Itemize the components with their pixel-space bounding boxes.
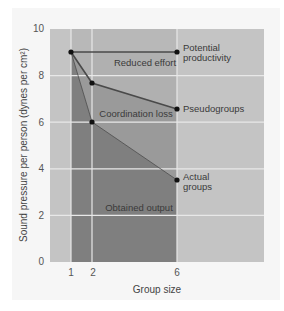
pseudogroups-label: Pseudogroups [183, 103, 245, 114]
svg-text:1: 1 [68, 267, 74, 278]
svg-text:0: 0 [38, 256, 44, 267]
y-axis-title: Sound pressure per person (dynes per cm²… [18, 48, 29, 242]
obtained-output-label: Obtained output [105, 202, 173, 213]
coordination-loss-label: Coordination loss [99, 108, 173, 119]
y-axis-ticks: 0 2 4 6 8 10 [33, 23, 45, 267]
svg-text:6: 6 [174, 267, 180, 278]
x-axis-ticks: 1 2 6 [68, 267, 180, 278]
svg-text:6: 6 [38, 117, 44, 128]
svg-text:4: 4 [38, 163, 44, 174]
x-axis-title: Group size [133, 284, 182, 295]
chart: 0 2 4 6 8 10 1 2 6 Group size Sound pres… [0, 0, 284, 311]
potential-label-line2: productivity [183, 52, 231, 63]
reduced-effort-label: Reduced effort [114, 57, 177, 68]
svg-text:2: 2 [38, 210, 44, 221]
actual-label-line2: groups [183, 181, 212, 192]
svg-text:10: 10 [33, 23, 45, 34]
svg-text:8: 8 [38, 70, 44, 81]
svg-text:2: 2 [90, 267, 96, 278]
